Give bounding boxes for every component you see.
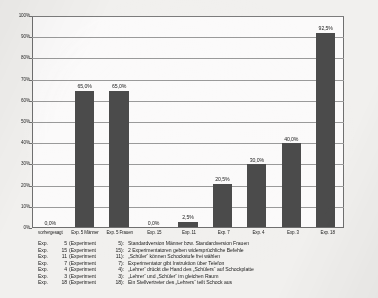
bar-slot: 20,5%: [205, 16, 239, 227]
bar-slot: 65,0%: [67, 16, 101, 227]
bar-slot: 92,5%: [309, 16, 343, 227]
x-tick-label: Exp. 15: [137, 230, 172, 236]
legend-key: 18: [55, 279, 69, 286]
y-tick-mark: [29, 143, 32, 144]
x-tick-label: Exp. 5 Männer: [68, 230, 103, 236]
y-tick-label: 90%: [0, 35, 30, 40]
bar-value-label: 2,5%: [171, 214, 205, 220]
y-tick-label: 60%: [0, 98, 30, 103]
bar-slot: 65,0%: [102, 16, 136, 227]
bar-value-label: 0,0%: [33, 220, 67, 226]
legend-key: Exp.: [38, 279, 55, 286]
bar-value-label: 20,5%: [205, 176, 239, 182]
bar-series: 0,0%65,0%65,0%0,0%2,5%20,5%30,0%40,0%92,…: [33, 16, 343, 227]
bar: [316, 33, 335, 227]
y-tick-mark: [29, 58, 32, 59]
y-tick-mark: [29, 122, 32, 123]
x-tick-label: vorhergesagt: [33, 230, 68, 236]
x-tick-label: Exp. 11: [172, 230, 207, 236]
chart-page: 100%90%80%70%60%50%40%30%20%10%0% 0,0%65…: [0, 0, 378, 298]
y-tick-mark: [29, 207, 32, 208]
bar-chart: 100%90%80%70%60%50%40%30%20%10%0% 0,0%65…: [32, 16, 344, 228]
bar-value-label: 40,0%: [274, 136, 308, 142]
x-tick-label: Exp. 7: [206, 230, 241, 236]
x-tick-label: Exp. 4: [241, 230, 276, 236]
y-tick-label: 50%: [0, 119, 30, 124]
x-tick-label: Exp. 3: [276, 230, 311, 236]
legend-key: (Experiment: [69, 279, 113, 286]
bar-slot: 40,0%: [274, 16, 308, 227]
bar: [282, 143, 301, 227]
bar: [213, 184, 232, 227]
x-tick-label: Exp. 18: [310, 230, 345, 236]
y-tick-label: 40%: [0, 141, 30, 146]
bar: [247, 164, 266, 227]
bar-value-label: 65,0%: [67, 83, 101, 89]
bar-value-label: 0,0%: [136, 220, 170, 226]
y-tick-label: 30%: [0, 162, 30, 167]
bar: [178, 222, 197, 227]
bar-value-label: 92,5%: [309, 25, 343, 31]
legend-description: Ein Stellvertreter des „Lehrers“ teilt S…: [124, 279, 232, 286]
y-tick-mark: [29, 37, 32, 38]
y-tick-mark: [29, 228, 32, 229]
y-tick-label: 70%: [0, 77, 30, 82]
bar-slot: 30,0%: [240, 16, 274, 227]
y-tick-label: 20%: [0, 183, 30, 188]
legend-key: 18):: [113, 279, 124, 286]
y-tick-label: 10%: [0, 204, 30, 209]
bar-value-label: 65,0%: [102, 83, 136, 89]
bar: [75, 91, 94, 228]
x-axis-labels: vorhergesagtExp. 5 MännerExp. 5 FrauenEx…: [33, 230, 345, 236]
bar-slot: 0,0%: [136, 16, 170, 227]
y-tick-mark: [29, 164, 32, 165]
y-tick-label: 0%: [0, 225, 30, 230]
bar-slot: 0,0%: [33, 16, 67, 227]
y-tick-mark: [29, 186, 32, 187]
bar-slot: 2,5%: [171, 16, 205, 227]
y-tick-mark: [29, 16, 32, 17]
legend-row: Exp.18(Experiment18):Ein Stellvertreter …: [38, 279, 368, 286]
bar: [109, 91, 128, 228]
y-tick-label: 100%: [0, 13, 30, 18]
bar-value-label: 30,0%: [240, 157, 274, 163]
chart-legend: Exp.5(Experiment5):Standardversion Männe…: [38, 240, 368, 286]
x-tick-label: Exp. 5 Frauen: [102, 230, 137, 236]
y-tick-label: 80%: [0, 56, 30, 61]
y-tick-mark: [29, 101, 32, 102]
y-tick-mark: [29, 80, 32, 81]
